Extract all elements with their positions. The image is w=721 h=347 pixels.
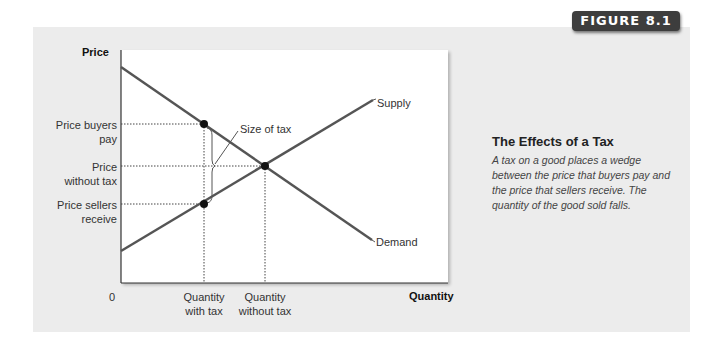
y-axis-title: Price [82, 46, 109, 58]
caption-title: The Effects of a Tax [492, 134, 614, 149]
demand-label-tick [372, 240, 375, 242]
x-tick-qty-with-line1: Quantity [174, 290, 234, 304]
y-tick-price-without-tax: Price without tax [30, 160, 117, 188]
y-tick-price-sellers-line1: Price sellers [30, 198, 117, 212]
y-tick-price-buyers-line2: pay [30, 132, 117, 146]
caption-text: A tax on a good places a wedge between t… [492, 153, 682, 213]
origin-label: 0 [106, 290, 118, 304]
y-tick-price-buyers-line1: Price buyers [30, 118, 117, 132]
y-tick-price-without-line2: without tax [30, 174, 117, 188]
y-tick-price-sellers-line2: receive [30, 212, 117, 226]
equilibrium-point [261, 162, 269, 170]
x-tick-qty-with-line2: with tax [174, 304, 234, 318]
size-of-tax-label: Size of tax [240, 123, 291, 135]
demand-curve [121, 67, 372, 240]
guide-lines [121, 124, 265, 283]
x-tick-qty-without-line1: Quantity [230, 290, 300, 304]
x-tick-quantity-with-tax: Quantity with tax [174, 290, 234, 318]
demand-label: Demand [376, 236, 418, 248]
x-tick-qty-without-line2: without tax [230, 304, 300, 318]
y-tick-price-buyers: Price buyers pay [30, 118, 117, 146]
sellers-price-point [200, 200, 208, 208]
size-of-tax-leader [215, 131, 238, 164]
x-axis-title: Quantity [409, 290, 454, 302]
supply-label: Supply [377, 97, 411, 109]
buyers-price-point [200, 120, 208, 128]
y-tick-price-without-line1: Price [30, 160, 117, 174]
supply-label-tick [373, 99, 376, 100]
y-tick-price-sellers: Price sellers receive [30, 198, 117, 226]
x-tick-quantity-without-tax: Quantity without tax [230, 290, 300, 318]
